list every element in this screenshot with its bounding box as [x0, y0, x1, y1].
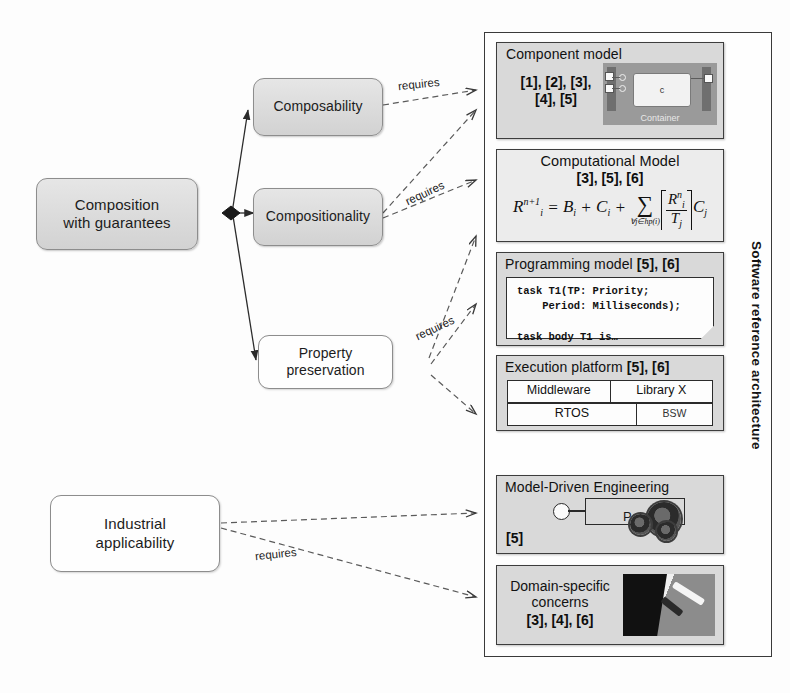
node-property-label-2: preservation	[286, 362, 364, 379]
connector-wire-3	[689, 78, 705, 79]
formula-lhs: Rn+1i	[513, 197, 543, 216]
node-property-preservation[interactable]: Property preservation	[258, 335, 393, 389]
layer-execution-platform-title: Execution platform [5], [6]	[497, 356, 723, 375]
port-icon-3	[704, 74, 713, 83]
platform-cell-library-x[interactable]: Library X	[610, 381, 713, 402]
node-compositionality-label: Compositionality	[266, 208, 370, 225]
formula-term-b: Bi	[563, 197, 576, 216]
platform-cell-middleware[interactable]: Middleware	[508, 381, 610, 402]
connector-wire-2	[612, 88, 620, 89]
layer-component-model-refs: [1], [2], [3], [4], [5]	[497, 74, 615, 107]
layer-programming-model[interactable]: Programming model [5], [6] task T1(TP: P…	[496, 252, 724, 346]
layer-component-model-title: Component model	[497, 43, 723, 62]
code-line-3: task body T1 is…	[517, 331, 618, 343]
domain-specific-text-block: Domain-specific concerns [3], [4], [6]	[497, 566, 623, 629]
formula-plus-1: +	[580, 197, 591, 216]
layer-mde-refs: [5]	[506, 530, 523, 547]
software-reference-architecture-label: Software reference architecture	[743, 33, 769, 658]
platform-cell-rtos[interactable]: RTOS	[508, 404, 636, 425]
edge-composition-composability	[232, 110, 248, 213]
node-composability[interactable]: Composability	[253, 78, 383, 136]
edge-industrial-mde	[221, 513, 476, 523]
layer-computational-model-title: Computational Model	[497, 150, 723, 169]
layer-computational-model-refs: [3], [5], [6]	[497, 170, 723, 187]
node-compositionality[interactable]: Compositionality	[253, 188, 383, 246]
node-composability-label: Composability	[273, 98, 362, 115]
node-composition-label-1: Composition	[63, 196, 170, 214]
edge-property-execution-platform	[431, 375, 476, 414]
edge-industrial-domain-specific	[221, 528, 476, 597]
edge-label-industrial-requires: requires	[254, 546, 297, 562]
programming-model-code: task T1(TP: Priority; Period: Millisecon…	[506, 277, 714, 339]
node-industrial-applicability[interactable]: Industrial applicability	[50, 495, 220, 572]
edge-label-composability-requires: requires	[397, 76, 440, 92]
platform-row-upper: Middleware Library X	[507, 380, 713, 403]
ceiling-numerator: Rni	[666, 190, 687, 212]
diagram-canvas: Composition with guarantees Composabilit…	[0, 0, 790, 693]
sigma-glyph: ∑	[637, 192, 653, 217]
layer-domain-specific-concerns[interactable]: Domain-specific concerns [3], [4], [6]	[496, 565, 724, 645]
connector-dot-1	[619, 74, 626, 81]
formula-term-c: Ci	[596, 197, 610, 216]
layer-execution-platform-refs: [5], [6]	[627, 359, 670, 375]
composition-diamond	[222, 206, 240, 220]
connector-wire-1	[612, 77, 620, 78]
edge-compositionality-component-model	[383, 110, 476, 213]
domain-specific-photo	[623, 574, 715, 636]
node-composition-label-2: with guarantees	[63, 214, 170, 232]
component-box: c	[633, 73, 691, 107]
code-line-2: Period: Milliseconds);	[517, 300, 681, 312]
node-composition-with-guarantees[interactable]: Composition with guarantees	[36, 178, 198, 250]
photo-tool-shape	[660, 596, 683, 616]
platform-cell-bsw[interactable]: BSW	[636, 404, 712, 425]
connector-dot-2	[619, 85, 626, 92]
node-industrial-label-1: Industrial	[96, 515, 175, 533]
edge-property-computational-model	[429, 236, 476, 358]
formula-summation: ∑ ∀j∈hp(i)	[630, 195, 660, 226]
layer-model-driven-engineering[interactable]: Model-Driven Engineering P [5]	[496, 475, 724, 554]
edge-label-compositionality-requires: requires	[403, 179, 446, 207]
ceiling-denominator: Tj	[666, 211, 687, 230]
layer-computational-model[interactable]: Computational Model [3], [5], [6] Rn+1i …	[496, 149, 724, 242]
component-model-picture: c Container	[603, 63, 717, 125]
platform-row-lower: RTOS BSW	[507, 403, 713, 426]
gear-icon-small	[630, 514, 651, 535]
container-caption: Container	[603, 113, 717, 123]
node-industrial-label-2: applicability	[96, 534, 175, 552]
layer-domain-title-2: concerns	[497, 594, 623, 610]
layer-mde-title: Model-Driven Engineering	[497, 476, 723, 495]
edge-property-programming-model	[431, 304, 476, 364]
formula-eq: =	[547, 197, 558, 216]
formula-plus-2: +	[614, 197, 625, 216]
layer-programming-model-refs: [5], [6]	[637, 256, 680, 272]
software-reference-architecture-frame: Software reference architecture Componen…	[484, 32, 772, 657]
layer-domain-refs: [3], [4], [6]	[497, 612, 623, 629]
layer-domain-title-1: Domain-specific	[497, 578, 623, 594]
formula-ceiling: Rni Tj	[661, 190, 692, 230]
mde-connector-line	[568, 510, 585, 512]
layer-execution-platform[interactable]: Execution platform [5], [6] Middleware L…	[496, 355, 724, 431]
formula-tail: Cj	[693, 197, 707, 216]
code-line-1: task T1(TP: Priority;	[517, 285, 649, 297]
sigma-limit: ∀j∈hp(i)	[630, 217, 660, 226]
layer-component-model[interactable]: Component model [1], [2], [3], [4], [5] …	[496, 42, 724, 139]
edge-label-property-requires: requires	[413, 314, 456, 342]
gear-icon-medium	[657, 522, 676, 541]
balloon-notch-icon	[701, 326, 714, 339]
layer-programming-model-title: Programming model [5], [6]	[497, 253, 723, 272]
response-time-formula: Rn+1i = Bi + Ci + ∑ ∀j∈hp(i) Rni Tj Cj	[497, 189, 723, 229]
edge-composability-component-model	[383, 90, 476, 105]
node-property-label-1: Property	[286, 345, 364, 362]
